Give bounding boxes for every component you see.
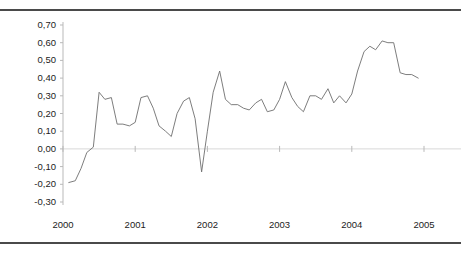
x-axis-tick-label: 2000 <box>38 220 88 230</box>
y-axis-tick-label: 0,10 <box>16 126 56 136</box>
x-axis-tick-label: 2002 <box>182 220 232 230</box>
series-line-group <box>69 41 418 183</box>
x-axis-tick-label: 2005 <box>399 220 449 230</box>
x-axis-labels: 200020012002200320042005 <box>0 220 461 236</box>
y-axis-tick-label: 0,50 <box>16 55 56 65</box>
y-axis-tick-label: 0,30 <box>16 91 56 101</box>
x-axis-tick-label: 2004 <box>327 220 377 230</box>
y-axis-tick-label: -0,20 <box>16 179 56 189</box>
y-axis-tick-label: 0,20 <box>16 109 56 119</box>
y-axis-tick-label: 0,00 <box>16 144 56 154</box>
chart-figure: 0,700,600,500,400,300,200,100,00-0,10-0,… <box>0 0 461 257</box>
y-axis-labels: 0,700,600,500,400,300,200,100,00-0,10-0,… <box>14 0 56 257</box>
y-axis-tick-label: 0,60 <box>16 38 56 48</box>
x-axis-tick-label: 2003 <box>255 220 305 230</box>
y-axis-tick-label: 0,70 <box>16 20 56 30</box>
y-axis-tick-label: 0,40 <box>16 73 56 83</box>
x-axis-tick-label: 2001 <box>110 220 160 230</box>
series-line <box>69 41 418 183</box>
y-axis-tick-label: -0,10 <box>16 162 56 172</box>
y-axis-tick-label: -0,30 <box>16 197 56 207</box>
